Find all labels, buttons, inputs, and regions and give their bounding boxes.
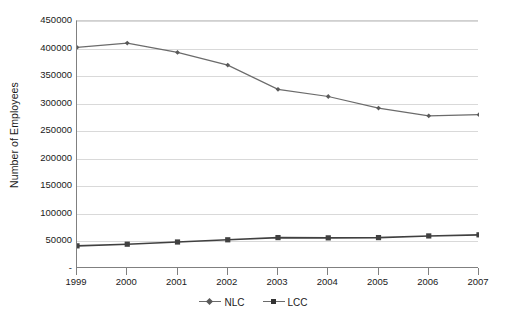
x-axis-tick-mark xyxy=(177,268,178,275)
chart-legend: NLCLCC xyxy=(0,294,507,310)
series-lcc xyxy=(77,232,479,248)
data-point-marker xyxy=(426,113,431,118)
y-axis-tick-label: 400000 xyxy=(22,43,72,53)
y-axis-title-text: Number of Employees xyxy=(8,82,20,188)
legend-marker-square-icon xyxy=(263,297,285,307)
y-axis-tick-label: 150000 xyxy=(22,181,72,191)
data-point-marker xyxy=(477,112,479,117)
data-point-marker xyxy=(77,45,79,50)
plot-area xyxy=(76,20,478,268)
x-axis-tick-mark xyxy=(76,268,77,275)
y-axis-tick-label: 50000 xyxy=(22,236,72,246)
y-axis-tick-label: 350000 xyxy=(22,70,72,80)
y-axis-tick-label: 100000 xyxy=(22,208,72,218)
data-point-marker xyxy=(225,237,230,242)
legend-label: LCC xyxy=(288,297,308,308)
data-point-marker xyxy=(376,106,381,111)
data-point-marker xyxy=(125,41,130,46)
y-axis-tick-label: 450000 xyxy=(22,15,72,25)
x-axis-tick-mark xyxy=(478,268,479,275)
y-axis-tick-labels: -500001000001500002000002500003000003500… xyxy=(22,0,72,322)
data-point-marker xyxy=(276,87,281,92)
x-axis-tick-mark xyxy=(277,268,278,275)
x-axis-tick-mark xyxy=(227,268,228,275)
legend-entry-nlc[interactable]: NLC xyxy=(199,297,244,308)
data-point-marker xyxy=(275,235,280,240)
y-axis-tick-label: 300000 xyxy=(22,98,72,108)
chart-series-layer xyxy=(77,21,479,269)
chart-figure: Number of Employees -5000010000015000020… xyxy=(0,0,507,322)
series-nlc xyxy=(77,41,479,119)
legend-marker-diamond-icon xyxy=(199,297,221,307)
data-point-marker xyxy=(125,242,130,247)
data-point-marker xyxy=(426,233,431,238)
x-axis-tick-labels: 199920002001200220032004200520062007 xyxy=(36,277,507,291)
x-axis-tick-mark xyxy=(378,268,379,275)
series-line xyxy=(77,43,479,116)
data-point-marker xyxy=(376,235,381,240)
x-axis-tick-mark xyxy=(428,268,429,275)
data-point-marker xyxy=(326,94,331,99)
data-point-marker xyxy=(225,63,230,68)
y-axis-tick-label: - xyxy=(22,263,72,273)
y-axis-tick-label: 250000 xyxy=(22,125,72,135)
data-point-marker xyxy=(326,235,331,240)
y-axis-tick-label: 200000 xyxy=(22,153,72,163)
data-point-marker xyxy=(476,232,479,237)
x-axis-tick-label: 2007 xyxy=(448,277,507,287)
legend-entry-lcc[interactable]: LCC xyxy=(263,297,308,308)
x-axis-tick-mark xyxy=(126,268,127,275)
x-axis-tick-mark xyxy=(327,268,328,275)
x-axis-tick-marks xyxy=(76,268,478,276)
data-point-marker xyxy=(175,50,180,55)
data-point-marker xyxy=(77,243,80,248)
legend-label: NLC xyxy=(224,297,244,308)
data-point-marker xyxy=(175,239,180,244)
